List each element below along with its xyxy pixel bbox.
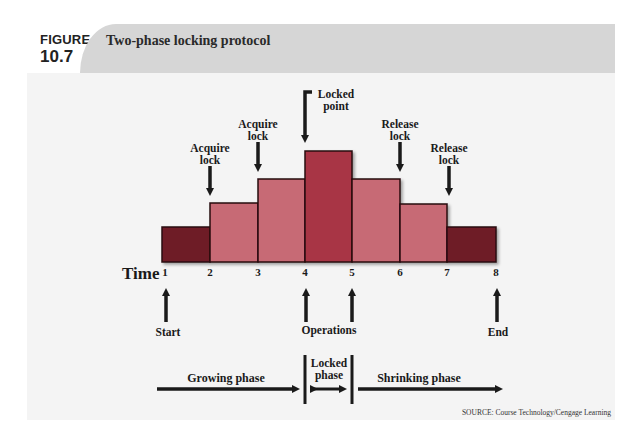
annotation-acquire-lock-2-line2: lock [248,130,269,142]
bar-3 [258,179,305,262]
tick-4: 4 [302,266,308,278]
locking-diagram: Time 1 2 3 4 5 6 7 8 Acquire lock Acquir… [0,0,637,440]
tick-7: 7 [444,266,450,278]
annotation-release-lock-1-line1: Release [381,118,418,130]
time-ticks: 1 2 3 4 5 6 7 8 [162,266,499,278]
annotation-release-lock-1-line2: lock [390,130,411,142]
bottom-arrows [166,292,497,322]
tick-1: 1 [162,266,168,278]
tick-5: 5 [349,266,355,278]
annotation-release-lock-2-line1: Release [430,142,467,154]
annotation-start: Start [156,326,181,338]
annotation-locked-point-line1: Locked [318,88,355,100]
locked-phase-label-line2: phase [315,369,343,382]
phase-labels: Growing phase Locked phase Shrinking pha… [187,357,461,385]
annotation-acquire-lock-1-line2: lock [200,154,221,166]
growing-phase-label: Growing phase [187,371,265,385]
tick-3: 3 [255,266,261,278]
tick-8: 8 [493,266,499,278]
annotation-release-lock-2-line2: lock [439,154,460,166]
bar-5 [352,179,400,262]
annotation-locked-point-line2: point [323,100,349,113]
arrow-down-icon [305,92,312,139]
bar-2 [210,203,258,262]
annotation-operations: Operations [302,324,357,337]
bar-7 [447,227,496,262]
bar-4 [305,151,352,262]
bar-1 [162,227,210,262]
source-credit: SOURCE: Course Technology/Cengage Learni… [462,408,611,417]
tick-6: 6 [397,266,403,278]
bars [162,151,496,262]
bar-6 [400,204,447,262]
tick-2: 2 [207,266,213,278]
shrinking-phase-label: Shrinking phase [377,371,461,385]
locked-phase-label-line1: Locked [311,357,348,369]
bottom-labels: Start Operations End [156,324,509,338]
time-axis-label: Time [122,264,160,283]
annotation-end: End [488,326,509,338]
